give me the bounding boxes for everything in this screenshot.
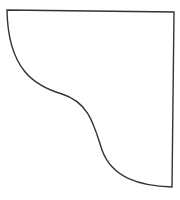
diagram-canvas (0, 0, 180, 200)
curved-quarter-shape (7, 10, 174, 187)
